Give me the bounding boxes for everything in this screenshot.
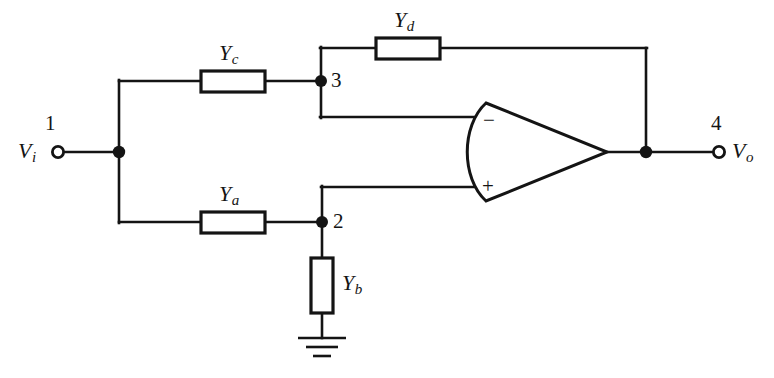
output-signal-label: Vo xyxy=(732,140,753,165)
input-signal-label: Vi xyxy=(18,140,36,165)
component-box-yb xyxy=(311,258,333,313)
component-symbol-yb: Y xyxy=(342,270,354,295)
junction-dot-node2 xyxy=(316,216,328,228)
terminal-circle-output[interactable] xyxy=(713,146,724,157)
component-box-ya xyxy=(201,212,265,233)
junction-dot-node1 xyxy=(113,146,125,158)
component-symbol-yd: Y xyxy=(394,7,406,32)
component-subscript-yb: b xyxy=(355,281,363,297)
component-label-yd: Yd xyxy=(394,9,414,34)
component-subscript-yd: d xyxy=(407,18,415,34)
output-signal-subscript: o xyxy=(746,149,754,165)
circuit-diagram: Vi 1 3 2 4 Vo Yc Ya Yd Yb − + xyxy=(0,0,774,378)
component-subscript-yc: c xyxy=(232,51,239,67)
component-label-yb: Yb xyxy=(342,272,362,297)
node-number-2: 2 xyxy=(333,211,344,232)
output-signal-symbol: V xyxy=(732,138,745,163)
component-symbol-yc: Y xyxy=(219,40,231,65)
node-number-4: 4 xyxy=(711,113,722,134)
component-label-yc: Yc xyxy=(219,42,238,67)
component-box-yc xyxy=(201,71,265,92)
input-signal-symbol: V xyxy=(18,138,31,163)
input-signal-subscript: i xyxy=(32,149,36,165)
component-box-yd xyxy=(376,38,440,59)
opamp-inverting-sign: − xyxy=(483,110,495,131)
circuit-schematic-canvas xyxy=(0,0,774,378)
junction-dot-node3 xyxy=(315,75,327,87)
node-number-3: 3 xyxy=(331,70,342,91)
component-label-ya: Ya xyxy=(219,183,239,208)
junction-dot-node4 xyxy=(640,146,652,158)
terminal-circle-input[interactable] xyxy=(52,146,63,157)
opamp-noninverting-sign: + xyxy=(482,176,494,197)
component-symbol-ya: Y xyxy=(219,181,231,206)
component-subscript-ya: a xyxy=(232,192,240,208)
node-number-1: 1 xyxy=(45,113,56,134)
